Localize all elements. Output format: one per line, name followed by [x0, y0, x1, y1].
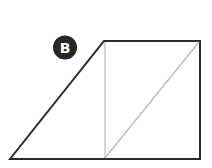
badge-label: B: [60, 40, 71, 56]
label-badge: B: [53, 36, 77, 60]
geometry-diagram: B: [0, 0, 212, 168]
square-diagonal-line: [105, 42, 199, 158]
